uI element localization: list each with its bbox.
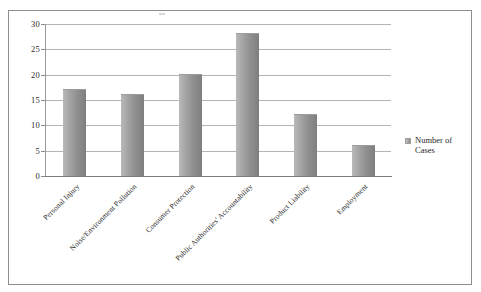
x-axis-label-slot: Public Authorities' Accountability: [219, 178, 277, 268]
y-axis-tick-label: 30: [31, 19, 40, 29]
bar[interactable]: [63, 89, 86, 176]
bar-slot: [46, 24, 104, 176]
bar[interactable]: [121, 94, 144, 176]
chart-legend: Number of Cases: [405, 135, 469, 155]
y-axis-tick-label: 0: [36, 171, 40, 181]
y-axis-tick-label: 20: [31, 70, 40, 80]
bar[interactable]: [352, 145, 375, 176]
y-axis-tick-label: 10: [31, 120, 40, 130]
x-axis-labels: Personal InjuryNoise/Environment Polluti…: [46, 178, 392, 268]
x-axis-category-text: Personal Injury: [41, 182, 81, 222]
chart-frame: 051015202530 Personal InjuryNoise/Enviro…: [8, 10, 472, 285]
x-axis-line: [45, 176, 392, 177]
x-axis-category-text: Employment: [335, 182, 369, 216]
y-axis-tick-label: 15: [31, 95, 40, 105]
y-axis-labels: 051015202530: [9, 24, 40, 176]
y-axis-tick-label: 5: [36, 146, 40, 156]
legend-label-number-of-cases: Number of Cases: [415, 135, 469, 155]
chart-plot: 051015202530 Personal InjuryNoise/Enviro…: [9, 11, 471, 284]
y-axis-tick-label: 25: [31, 44, 40, 54]
x-axis-label-slot: Employment: [334, 178, 392, 268]
legend-swatch-number-of-cases: [405, 138, 411, 144]
bar[interactable]: [236, 33, 259, 176]
x-axis-label-slot: Product Liability: [277, 178, 335, 268]
